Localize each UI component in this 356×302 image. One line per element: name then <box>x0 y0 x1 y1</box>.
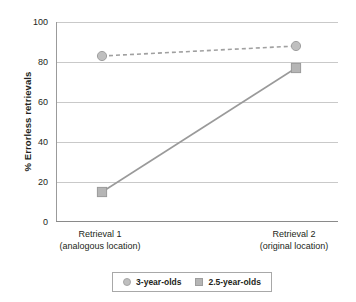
y-tick-label-40: 40 <box>6 138 48 147</box>
x-category-line2: (original location) <box>238 240 350 252</box>
y-tick-label-100: 100 <box>6 18 48 27</box>
legend-label: 3-year-olds <box>136 277 181 287</box>
legend-entry-3-year-olds: 3-year-olds <box>123 277 181 287</box>
y-tick-label-0: 0 <box>6 218 48 227</box>
y-tick-label-80: 80 <box>6 58 48 67</box>
x-category-line1: Retrieval 2 <box>238 228 350 240</box>
square-marker-icon <box>195 278 203 286</box>
y-tick-label-20: 20 <box>6 178 48 187</box>
legend-label: 2.5-year-olds <box>208 277 260 287</box>
series-layer <box>56 22 338 222</box>
x-category-line1: Retrieval 1 <box>44 228 156 240</box>
chart-figure: % Errorless retrievals 100 80 60 40 20 0… <box>0 0 356 302</box>
x-category-line2: (analogous location) <box>44 240 156 252</box>
data-point-3-year-olds-Retrieval 1 <box>97 51 106 60</box>
y-tick-label-60: 60 <box>6 98 48 107</box>
series-line-3-year-olds <box>102 46 296 56</box>
data-point-2.5-year-olds-Retrieval 2 <box>291 63 300 72</box>
x-category-label-1: Retrieval 2 (original location) <box>238 228 350 252</box>
chart-legend: 3-year-olds 2.5-year-olds <box>112 272 272 292</box>
data-point-2.5-year-olds-Retrieval 1 <box>97 187 106 196</box>
x-category-label-0: Retrieval 1 (analogous location) <box>44 228 156 252</box>
data-point-3-year-olds-Retrieval 2 <box>291 41 300 50</box>
legend-entry-2.5-year-olds: 2.5-year-olds <box>195 277 260 287</box>
circle-marker-icon <box>123 278 131 286</box>
series-line-2.5-year-olds <box>102 68 296 192</box>
